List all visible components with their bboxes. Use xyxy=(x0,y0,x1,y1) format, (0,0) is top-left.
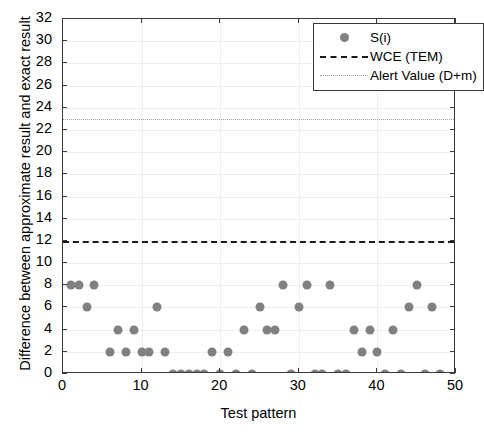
y-tick-label: 32 xyxy=(6,9,52,25)
legend-label-alert: Alert Value (D+m) xyxy=(370,68,477,83)
gridline-horizontal xyxy=(63,108,454,109)
data-point xyxy=(74,281,83,290)
y-tick-right xyxy=(450,240,455,241)
y-tick-right xyxy=(450,107,455,108)
x-tick xyxy=(298,368,299,373)
data-point xyxy=(294,303,303,312)
x-tick xyxy=(141,368,142,373)
y-tick-right xyxy=(450,262,455,263)
data-point xyxy=(341,370,350,374)
x-tick-top xyxy=(62,18,63,23)
x-tick-top xyxy=(219,18,220,23)
data-point xyxy=(239,325,248,334)
data-point xyxy=(326,281,335,290)
data-point xyxy=(114,325,123,334)
data-point xyxy=(224,347,233,356)
y-tick-label: 30 xyxy=(6,31,52,47)
gridline-horizontal xyxy=(63,130,454,131)
y-tick xyxy=(62,173,67,174)
data-point xyxy=(365,325,374,334)
legend-item-wce: WCE (TEM) xyxy=(318,47,477,66)
y-tick xyxy=(62,129,67,130)
data-point xyxy=(153,303,162,312)
y-tick xyxy=(62,107,67,108)
x-tick-top xyxy=(141,18,142,23)
gridline-vertical xyxy=(220,19,221,372)
y-tick-right xyxy=(450,151,455,152)
x-tick-top xyxy=(298,18,299,23)
y-tick-label: 2 xyxy=(6,342,52,358)
y-tick xyxy=(62,240,67,241)
legend-label-wce: WCE (TEM) xyxy=(370,49,443,64)
y-tick-label: 22 xyxy=(6,120,52,136)
data-point xyxy=(271,325,280,334)
y-tick xyxy=(62,151,67,152)
data-point xyxy=(82,303,91,312)
x-tick-label: 50 xyxy=(435,377,475,393)
y-tick-label: 16 xyxy=(6,187,52,203)
y-tick xyxy=(62,262,67,263)
gridline-vertical xyxy=(299,19,300,372)
x-tick xyxy=(455,368,456,373)
y-tick-label: 24 xyxy=(6,98,52,114)
y-tick xyxy=(62,329,67,330)
data-point xyxy=(373,347,382,356)
data-point xyxy=(90,281,99,290)
gridline-horizontal xyxy=(63,152,454,153)
alert-value-reference-line xyxy=(63,119,454,120)
data-point xyxy=(404,303,413,312)
legend-dashed-line-icon xyxy=(318,47,370,66)
y-tick-label: 20 xyxy=(6,142,52,158)
y-tick-label: 10 xyxy=(6,253,52,269)
gridline-horizontal xyxy=(63,263,454,264)
y-tick-label: 18 xyxy=(6,164,52,180)
y-tick-right xyxy=(450,351,455,352)
data-point xyxy=(145,347,154,356)
data-point xyxy=(208,347,217,356)
chart-legend: S(i) WCE (TEM) Alert Value (D+m) xyxy=(313,23,484,91)
x-tick-label: 10 xyxy=(121,377,161,393)
data-point xyxy=(286,370,295,374)
data-point xyxy=(161,347,170,356)
y-tick-right xyxy=(450,306,455,307)
data-point xyxy=(318,370,327,374)
data-point xyxy=(389,325,398,334)
data-point xyxy=(247,370,256,374)
gridline-horizontal xyxy=(63,197,454,198)
y-tick xyxy=(62,284,67,285)
y-tick-right xyxy=(450,373,455,374)
data-point xyxy=(106,347,115,356)
data-point xyxy=(436,370,445,374)
x-tick-label: 20 xyxy=(199,377,239,393)
gridline-horizontal xyxy=(63,285,454,286)
data-point xyxy=(428,303,437,312)
y-tick-right xyxy=(450,329,455,330)
y-tick xyxy=(62,40,67,41)
y-tick xyxy=(62,351,67,352)
y-tick-right xyxy=(450,284,455,285)
data-point xyxy=(381,370,390,374)
legend-item-si: S(i) xyxy=(318,28,477,47)
data-point xyxy=(412,281,421,290)
data-point xyxy=(349,325,358,334)
x-tick xyxy=(376,368,377,373)
data-point xyxy=(255,303,264,312)
y-tick-right xyxy=(450,173,455,174)
y-tick xyxy=(62,62,67,63)
gridline-vertical xyxy=(142,19,143,372)
data-point xyxy=(357,347,366,356)
y-tick xyxy=(62,196,67,197)
y-tick xyxy=(62,218,67,219)
y-tick-right xyxy=(450,218,455,219)
y-tick-label: 28 xyxy=(6,53,52,69)
x-tick-label: 40 xyxy=(356,377,396,393)
data-point xyxy=(302,281,311,290)
y-tick-right xyxy=(450,196,455,197)
data-point xyxy=(279,281,288,290)
data-point xyxy=(216,370,225,374)
gridline-horizontal xyxy=(63,219,454,220)
data-point xyxy=(396,370,405,374)
data-point xyxy=(121,347,130,356)
gridline-horizontal xyxy=(63,174,454,175)
